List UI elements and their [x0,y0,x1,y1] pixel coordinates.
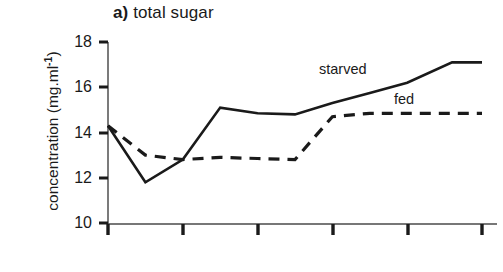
y-axis [99,42,108,224]
series-line-fed [108,113,482,159]
chart-figure: a) total sugar concentration (mg.ml-1) 1… [0,0,503,272]
x-axis [108,224,497,235]
plot-area [0,0,503,272]
series-line-starved [108,62,482,182]
